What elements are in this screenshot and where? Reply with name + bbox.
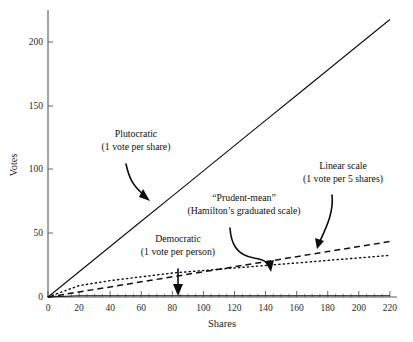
series-line-prudent-mean (48, 255, 390, 297)
y-tick-label-0: 0 (38, 292, 43, 302)
x-tick-label-220: 220 (383, 303, 398, 313)
y-tick-label-150: 150 (29, 101, 44, 111)
prudent-mean-arrow-shaft (230, 228, 269, 265)
series-layer (48, 20, 390, 297)
x-tick-label-0: 0 (46, 303, 51, 313)
x-tick-label-160: 160 (290, 303, 305, 313)
y-axis-title: Votes (8, 153, 19, 176)
annotation-prudent-mean: “Prudent-mean” (Hamilton’s graduated sca… (187, 192, 300, 217)
annotation-arrows (126, 164, 332, 296)
annotation-plutocratic: Plutocratic (1 vote per share) (102, 128, 171, 153)
linear-scale-arrow-head (315, 238, 324, 249)
democratic-label-line2: (1 vote per person) (141, 246, 215, 258)
linear-scale-label-line2: (1 vote per 5 shares) (303, 173, 383, 185)
y-tick-label-100: 100 (29, 164, 44, 174)
linear-scale-arrow-shaft (320, 195, 332, 241)
x-tick-label-80: 80 (168, 303, 178, 313)
linear-scale-label-line1: Linear scale (319, 160, 367, 171)
prudent-mean-label-line2: (Hamilton’s graduated scale) (187, 205, 300, 217)
chart-plot-area: 0 50 100 150 200 02040608010012014016018… (0, 0, 413, 342)
x-tick-label-100: 100 (196, 303, 211, 313)
y-tick-labels: 0 50 100 150 200 (29, 37, 44, 302)
series-line-linear-scale (48, 242, 390, 298)
democratic-arrow-head (173, 284, 183, 296)
plutocratic-label-line1: Plutocratic (115, 128, 158, 139)
y-tick-label-200: 200 (29, 37, 44, 47)
plutocratic-label-line2: (1 vote per share) (102, 141, 171, 153)
x-tick-label-60: 60 (136, 303, 146, 313)
x-tick-label-180: 180 (321, 303, 336, 313)
annotation-democratic: Democratic (1 vote per person) (141, 233, 215, 258)
x-tick-label-140: 140 (258, 303, 273, 313)
x-tick-label-200: 200 (352, 303, 367, 313)
x-tick-label-120: 120 (227, 303, 242, 313)
x-tick-label-40: 40 (105, 303, 115, 313)
prudent-mean-label-line1: “Prudent-mean” (212, 192, 276, 203)
x-axis-title: Shares (208, 318, 236, 329)
plutocratic-arrow-head (139, 189, 150, 201)
series-line-plutocratic (48, 20, 390, 297)
chart-container: 0 50 100 150 200 02040608010012014016018… (0, 0, 413, 342)
x-tick-labels: 020406080100120140160180200220 (46, 303, 398, 313)
plutocratic-arrow-shaft (126, 164, 144, 195)
democratic-label-line1: Democratic (155, 233, 201, 244)
annotation-linear-scale: Linear scale (1 vote per 5 shares) (303, 160, 383, 185)
x-tick-label-20: 20 (74, 303, 84, 313)
y-tick-label-50: 50 (34, 228, 44, 238)
axis-y (48, 10, 53, 297)
